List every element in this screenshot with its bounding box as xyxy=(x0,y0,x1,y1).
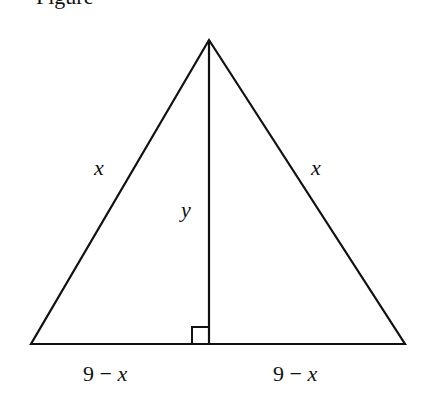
left-base-number: 9 − xyxy=(83,361,117,386)
left-side-label: x xyxy=(93,155,104,180)
triangle-diagram: x x y 9 − x 9 − x xyxy=(0,0,426,405)
right-angle-marker xyxy=(192,327,209,344)
right-base-variable: x xyxy=(306,361,317,386)
right-base-label: 9 − x xyxy=(273,361,317,386)
altitude-label: y xyxy=(179,197,191,222)
right-base-number: 9 − xyxy=(273,361,307,386)
right-side-label: x xyxy=(310,155,321,180)
left-base-variable: x xyxy=(116,361,127,386)
triangle-outline xyxy=(31,40,405,344)
left-base-label: 9 − x xyxy=(83,361,127,386)
